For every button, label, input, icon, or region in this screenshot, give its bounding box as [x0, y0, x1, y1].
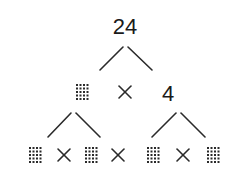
left-sub-right-branch: [76, 113, 100, 137]
level2-times-icon-2: [112, 149, 124, 161]
level1-times-icon: [119, 86, 131, 98]
root-right-branch: [128, 47, 152, 70]
root-left-branch: [100, 47, 123, 70]
level2-blank-box-2[interactable]: [85, 147, 98, 163]
level2-times-icon-1: [58, 149, 70, 161]
left-sub-left-branch: [48, 113, 71, 137]
level2-blank-box-3[interactable]: [147, 147, 160, 163]
factor-tree-canvas: 24 4: [0, 0, 232, 173]
level2-blank-box-1[interactable]: [29, 147, 42, 163]
right-sub-left-branch: [152, 113, 176, 137]
level2-times-icon-3: [177, 149, 189, 161]
factor-tree-diagram: 24 4: [0, 0, 232, 173]
root-number: 24: [113, 14, 137, 39]
right-sub-right-branch: [181, 113, 205, 137]
level2-blank-box-4[interactable]: [207, 147, 220, 163]
level1-right-factor: 4: [162, 81, 174, 106]
level1-blank-box[interactable]: [76, 84, 89, 100]
